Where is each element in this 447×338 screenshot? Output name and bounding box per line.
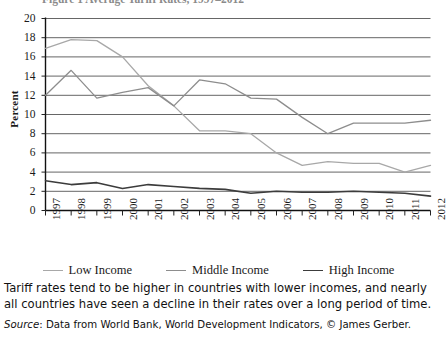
caption-block: Tariff rates tend to be higher in countr… bbox=[4, 281, 433, 330]
legend-label: High Income bbox=[329, 263, 395, 278]
legend-label: Low Income bbox=[69, 263, 133, 278]
legend-entry-middle-income: Middle Income bbox=[166, 263, 269, 278]
source-label: Source bbox=[4, 319, 39, 330]
chart-legend: Low IncomeMiddle IncomeHigh Income bbox=[0, 263, 437, 278]
legend-line-swatch bbox=[303, 270, 323, 271]
caption-text: Tariff rates tend to be higher in countr… bbox=[4, 281, 433, 312]
source-line: Source: Data from World Bank, World Deve… bbox=[4, 319, 433, 330]
legend-line-swatch bbox=[43, 270, 63, 271]
legend-line-swatch bbox=[166, 270, 186, 271]
legend-entry-high-income: High Income bbox=[303, 263, 395, 278]
chart-area: Percent 02468101214161820 19971998199920… bbox=[0, 8, 437, 276]
legend-entry-low-income: Low Income bbox=[43, 263, 133, 278]
axis-lines bbox=[46, 18, 431, 211]
data-series-group bbox=[46, 40, 431, 196]
legend-label: Middle Income bbox=[192, 263, 269, 278]
figure-title: Figure 1 Average Tariff Rates, 1997–2012 bbox=[42, 0, 244, 7]
x-axis-ticks bbox=[46, 211, 431, 216]
line-chart-plot bbox=[0, 8, 437, 276]
gridlines bbox=[46, 19, 431, 211]
source-text: : Data from World Bank, World Developmen… bbox=[39, 319, 411, 330]
